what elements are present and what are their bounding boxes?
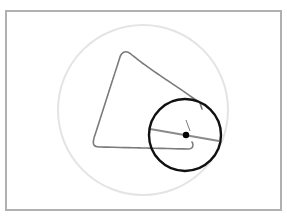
frame-border (6, 11, 281, 210)
diagram-canvas (0, 0, 287, 217)
pen-arm-line (186, 120, 190, 131)
center-dot (183, 132, 189, 138)
fixed-circle (58, 25, 228, 195)
